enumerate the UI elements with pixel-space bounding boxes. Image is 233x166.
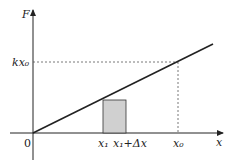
y-axis-label: F — [21, 8, 30, 21]
origin-label: 0 — [24, 137, 31, 150]
force-displacement-diagram: F x 0 kx₀ x₁ x₁+Δx x₀ — [0, 0, 233, 166]
kx0-label: kx₀ — [12, 56, 30, 69]
x-axis-label: x — [216, 136, 223, 149]
x1-label: x₁ — [98, 137, 109, 150]
x0-label: x₀ — [173, 137, 184, 150]
area-strip — [103, 100, 126, 133]
x1-plus-dx-label: x₁+Δx — [113, 137, 148, 150]
